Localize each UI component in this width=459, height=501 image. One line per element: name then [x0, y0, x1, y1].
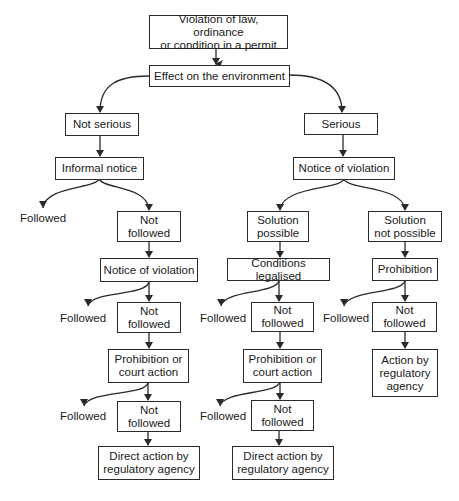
- followed-label: Followed: [20, 212, 66, 225]
- not-followed-box: Not followed: [372, 302, 437, 332]
- followed-label: Followed: [60, 410, 106, 423]
- followed-label: Followed: [323, 312, 369, 325]
- not-followed-box: Not followed: [117, 401, 181, 432]
- conditions-legalised-box: Conditions legalised: [227, 258, 330, 281]
- effect-on-environment-box: Effect on the environment: [149, 65, 290, 87]
- serious-box: Serious: [304, 113, 378, 135]
- action-by-regulatory-agency-box: Action by regulatory agency: [372, 349, 438, 397]
- flowchart-canvas: Violation of law, ordinance or condition…: [0, 0, 459, 501]
- solution-not-possible-box: Solution not possible: [368, 211, 442, 242]
- followed-label: Followed: [60, 312, 106, 325]
- prohibition-or-court-action-box-left: Prohibition or court action: [108, 349, 189, 383]
- notice-of-violation-box-left: Notice of violation: [100, 258, 198, 282]
- direct-action-box-mid: Direct action by regulatory agency: [232, 446, 334, 480]
- informal-notice-box: Informal notice: [55, 157, 144, 180]
- not-serious-box: Not serious: [65, 113, 139, 136]
- not-followed-box: Not followed: [251, 400, 314, 431]
- prohibition-box: Prohibition: [372, 258, 438, 281]
- solution-possible-box: Solution possible: [247, 211, 309, 242]
- prohibition-or-court-action-box-mid: Prohibition or court action: [243, 349, 322, 383]
- followed-label: Followed: [200, 410, 246, 423]
- notice-of-violation-box-right: Notice of violation: [293, 157, 395, 180]
- violation-box: Violation of law, ordinance or condition…: [149, 15, 288, 49]
- not-followed-box: Not followed: [251, 302, 314, 332]
- not-followed-box: Not followed: [117, 302, 181, 333]
- not-followed-box: Not followed: [117, 211, 181, 242]
- followed-label: Followed: [200, 312, 246, 325]
- direct-action-box-left: Direct action by regulatory agency: [98, 446, 200, 480]
